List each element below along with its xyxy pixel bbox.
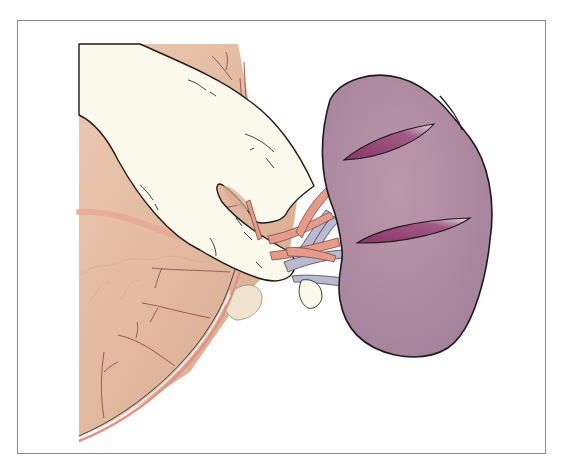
spleen: [322, 75, 492, 357]
spleen-illustration: [0, 0, 564, 475]
